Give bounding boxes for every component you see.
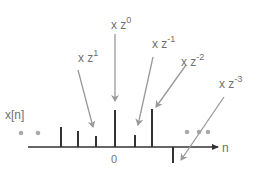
arrow-z1 (78, 70, 93, 127)
label-zm2: x z-2 (181, 52, 204, 69)
label-zm1: x z-1 (152, 34, 175, 51)
origin-label: 0 (111, 153, 117, 165)
ellipsis-right (185, 130, 211, 135)
signal-label: x[n] (5, 108, 24, 122)
arrow-zm1 (138, 57, 153, 125)
axis-label-n: n (222, 141, 229, 155)
label-zm3: x z-3 (219, 74, 242, 91)
arrow-zm3 (181, 97, 224, 160)
label-z0: x z0 (111, 15, 131, 32)
z-transform-diagram: x[n] n 0 x z1 x z0 x z-1 x z-2 x z-3 (0, 0, 258, 175)
ellipsis-left (19, 131, 41, 136)
label-z1: x z1 (78, 48, 98, 65)
arrow-zm2 (156, 65, 186, 107)
